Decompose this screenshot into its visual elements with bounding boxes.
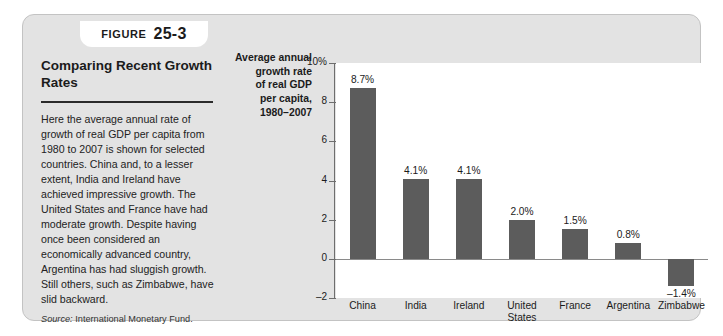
figure-number-tab: Figure 25-3 [80,21,208,47]
x-axis-label: China [335,300,391,312]
bar-value-label: 1.5% [547,215,603,226]
y-axis-ticks: 10%86420–2 [286,63,336,298]
bar-value-label: –1.4% [653,288,709,299]
bar [456,179,482,259]
x-axis-label: Zimbabwe [653,300,709,312]
bar-value-label: 0.8% [600,229,656,240]
y-tick-label: 8 [321,95,327,106]
bar-chart: Average annual growth rate of real GDP p… [216,37,694,313]
caption-body-text: Here the average annual rate of growth o… [41,112,216,307]
x-axis-label: Ireland [441,300,497,312]
bar-value-label: 4.1% [388,165,444,176]
bars-layer: 8.7%4.1%4.1%2.0%1.5%0.8%–1.4% [336,63,708,298]
bar-value-label: 2.0% [494,206,550,217]
bar-value-label: 4.1% [441,165,497,176]
figure-label: Figure [101,28,146,40]
bar [350,88,376,258]
bar [562,229,588,258]
bar-value-label: 8.7% [335,74,391,85]
y-tick-mark [329,181,336,182]
y-tick-mark [329,63,336,64]
y-tick-mark [329,298,336,299]
x-axis-label: United States [494,300,550,325]
caption-heading: Comparing Recent Growth Rates [41,57,226,92]
figure-number: 25-3 [153,25,186,43]
bar [668,259,694,286]
y-tick-mark [329,259,336,260]
figure-panel: Figure 25-3 Comparing Recent Growth Rate… [22,14,701,321]
y-tick-label: 0 [321,252,327,263]
bar [615,243,641,259]
heading-divider [41,101,213,103]
caption-column: Comparing Recent Growth Rates Here the a… [41,57,226,326]
y-tick-label: –2 [316,291,327,302]
x-axis-labels: ChinaIndiaIrelandUnited StatesFranceArge… [336,300,708,330]
source-label: Source: [41,314,73,324]
x-axis-label: Argentina [600,300,656,312]
y-tick-label: 10% [307,56,327,67]
y-tick-label: 6 [321,134,327,145]
y-tick-label: 4 [321,174,327,185]
x-axis-label: India [388,300,444,312]
bar [509,220,535,259]
y-tick-label: 2 [321,213,327,224]
source-text: International Monetary Fund. [75,314,192,324]
x-axis-label: France [547,300,603,312]
y-tick-mark [329,220,336,221]
caption-source: Source: International Monetary Fund. [41,314,226,326]
y-tick-mark [329,102,336,103]
y-tick-mark [329,141,336,142]
bar [403,179,429,259]
